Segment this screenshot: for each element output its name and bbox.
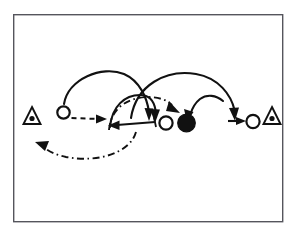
trajectory-diagram bbox=[0, 0, 295, 235]
circle-filled-target bbox=[178, 114, 196, 132]
circle-open-right bbox=[246, 115, 259, 128]
triangle-dot-icon bbox=[29, 116, 34, 121]
figure-root bbox=[0, 0, 295, 235]
circle-open-mid bbox=[159, 116, 172, 129]
circle-open-left bbox=[57, 106, 69, 118]
triangle-dot-icon bbox=[269, 116, 274, 121]
